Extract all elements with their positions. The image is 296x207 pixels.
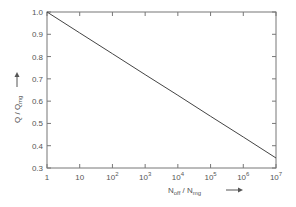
y-axis-ticks: 0.30.40.50.60.70.80.91.0 [32,8,276,173]
x-tick-label: 1 [45,173,50,182]
y-tick-label: 1.0 [32,8,44,17]
x-tick-label: 10 [75,173,84,182]
y-tick-label: 0.8 [32,53,44,62]
x-tick-label: 105 [204,171,217,182]
y-tick-label: 0.9 [32,30,44,39]
arrow-up-icon [15,72,20,87]
y-axis-title: Q / Qmg [13,72,23,123]
chart: 0.30.40.50.60.70.80.91.0 110102103104105… [0,0,296,207]
data-line [47,12,276,158]
x-tick-label: 107 [270,171,283,182]
svg-text:Noff / Nmg: Noff / Nmg [168,186,201,196]
x-axis-ticks: 110102103104105106107 [45,12,283,182]
plot-frame [47,12,276,168]
x-tick-label: 104 [172,171,185,182]
x-axis-title: Noff / Nmg [168,186,243,196]
x-tick-label: 102 [106,171,119,182]
x-tick-label: 106 [237,171,250,182]
y-tick-label: 0.3 [32,164,44,173]
x-tick-label: 103 [139,171,152,182]
y-tick-label: 0.4 [32,142,44,151]
y-tick-label: 0.6 [32,97,44,106]
y-tick-label: 0.7 [32,75,44,84]
arrow-right-icon [226,188,243,193]
svg-text:Q / Qmg: Q / Qmg [13,96,23,123]
y-tick-label: 0.5 [32,119,44,128]
